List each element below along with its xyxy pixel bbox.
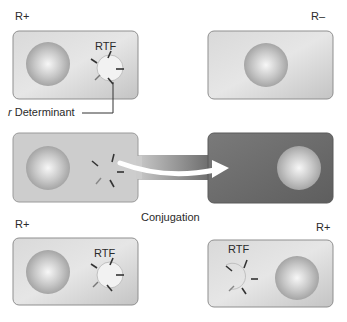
conjugation-caption: Conjugation: [141, 211, 200, 223]
nucleoid-icon: [26, 146, 70, 190]
conjugation-diagram: [0, 0, 347, 322]
donor-cell-top: [13, 31, 138, 99]
conjugating-pair: [13, 133, 333, 203]
determinant-text: Determinant: [12, 106, 75, 118]
cell-label-bottom-right: R+: [316, 221, 330, 233]
donor-cell-bottom: [13, 238, 138, 305]
nucleoid-icon: [277, 146, 321, 190]
nucleoid-icon: [26, 42, 70, 86]
rtf-label-bottom-left: RTF: [94, 247, 115, 259]
nucleoid-icon: [275, 256, 319, 300]
cell-label-bottom-left: R+: [15, 218, 29, 230]
nucleoid-icon: [244, 43, 288, 87]
cell-label-top-right: R–: [311, 10, 325, 22]
rtf-label-top-left: RTF: [95, 40, 116, 52]
recipient-cell-bottom: [208, 240, 333, 307]
rtf-label-bottom-right: RTF: [228, 243, 249, 255]
r-determinant-label: r Determinant: [8, 106, 75, 118]
nucleoid-icon: [26, 250, 70, 294]
cell-label-top-left: R+: [15, 10, 29, 22]
conjugation-bridge: [138, 155, 212, 180]
recipient-cell-top: [208, 31, 333, 99]
